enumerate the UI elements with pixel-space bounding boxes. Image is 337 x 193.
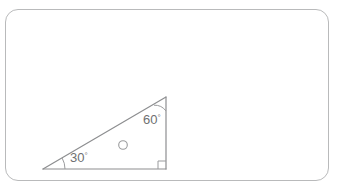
angle-label-30: 30°	[70, 150, 88, 165]
interior-circle-marker-icon	[119, 141, 128, 150]
right-angle-marker-icon	[158, 161, 166, 169]
screenshot-stage: 30° 60°	[0, 0, 337, 193]
angle-arc-30	[62, 158, 65, 169]
angle-arc-60	[154, 105, 166, 111]
triangle-hypotenuse	[43, 97, 166, 169]
angle-label-60: 60°	[143, 112, 161, 127]
triangle-figure: 30° 60°	[0, 0, 337, 193]
